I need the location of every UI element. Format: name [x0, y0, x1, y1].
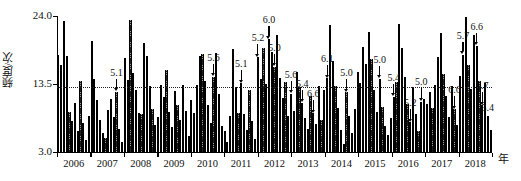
peak-value-label: 6.1	[321, 54, 334, 64]
x-tick-label: 2007	[97, 158, 118, 169]
x-tick-label: 2018	[465, 158, 486, 169]
x-tick-mark	[157, 153, 158, 157]
peak-value-label: 5.0	[268, 43, 281, 53]
x-tick-mark	[90, 153, 91, 157]
y-tick-label: 3.0	[18, 145, 52, 157]
peak-value-label: 6.6	[471, 22, 484, 32]
x-tick-mark	[124, 153, 125, 157]
x-axis-line	[57, 152, 492, 153]
x-tick-mark	[358, 153, 359, 157]
x-tick-mark	[392, 153, 393, 157]
x-tick-label: 2013	[297, 158, 318, 169]
y-tick-mark	[53, 16, 57, 17]
peak-value-label: 5.1	[110, 68, 123, 78]
x-tick-label: 2016	[398, 158, 419, 169]
peak-value-label: 5.4	[387, 73, 400, 83]
x-tick-label: 2006	[63, 158, 84, 169]
peak-value-label: 5.2	[252, 33, 265, 43]
y-tick-mark	[53, 152, 57, 153]
x-tick-label: 2008	[130, 158, 151, 169]
peak-value-label: 6.6	[307, 89, 320, 99]
y-tick-label: 24.0	[18, 9, 52, 21]
peak-value-label: 6.6	[448, 85, 461, 95]
peak-value-label: 5.7	[476, 81, 489, 91]
x-tick-mark	[191, 153, 192, 157]
x-tick-label: 2012	[264, 158, 285, 169]
x-tick-mark	[325, 153, 326, 157]
x-tick-label: 2010	[197, 158, 218, 169]
bar-chart: 频度/次 年 3.013.524.0 5.15.65.15.26.05.05.6…	[0, 0, 521, 181]
x-tick-mark	[291, 153, 292, 157]
peak-value-label: 5.1	[235, 59, 248, 69]
x-tick-label: 2014	[331, 158, 352, 169]
peak-value-label: 5.4	[482, 103, 495, 113]
x-tick-mark	[57, 153, 58, 157]
peak-value-label: 5.0	[374, 55, 387, 65]
x-tick-mark	[425, 153, 426, 157]
x-tick-label: 2009	[164, 158, 185, 169]
x-tick-mark	[459, 153, 460, 157]
peak-value-label: 5.0	[340, 68, 353, 78]
x-tick-mark	[258, 153, 259, 157]
x-tick-label: 2015	[364, 158, 385, 169]
peak-value-label: 6.0	[263, 15, 276, 25]
x-tick-mark	[224, 153, 225, 157]
peak-value-label: 5.7	[457, 31, 470, 41]
x-tick-mark	[492, 153, 493, 157]
peak-value-label: 5.6	[207, 53, 220, 63]
bar	[490, 130, 492, 152]
y-tick-mark	[53, 84, 57, 85]
peak-value-label: 5.2	[404, 98, 417, 108]
peak-value-label: 5.0	[415, 77, 428, 87]
x-axis-title: 年	[498, 150, 509, 166]
y-tick-label: 13.5	[18, 77, 52, 89]
x-tick-label: 2011	[231, 158, 252, 169]
x-tick-label: 2017	[431, 158, 452, 169]
y-axis-tick-labels: 3.013.524.0	[12, 0, 52, 181]
